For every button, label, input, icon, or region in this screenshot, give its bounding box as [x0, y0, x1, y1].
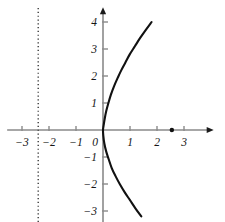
focus-point-marker [170, 128, 174, 132]
y-tick-label: −2 [83, 178, 97, 190]
x-tick-label: −2 [42, 136, 56, 148]
x-tick-label: −1 [69, 136, 83, 148]
x-tick-label: 1 [127, 136, 133, 148]
x-tick-label: −3 [15, 136, 29, 148]
y-tick-label: 1 [91, 97, 97, 109]
origin-label: 0 [92, 136, 98, 148]
y-tick-label: −1 [83, 151, 97, 163]
parabola-curve [103, 22, 152, 216]
y-tick-label: 2 [91, 70, 97, 82]
parabola-graph-figure: −3−2−11230 −3−2−11234 [0, 0, 225, 222]
y-axis-arrowhead-icon [100, 7, 106, 14]
y-axis-tick-labels: −3−2−11234 [83, 16, 97, 217]
y-tick-label: 3 [90, 43, 97, 55]
coordinate-plane-svg: −3−2−11230 −3−2−11234 [0, 0, 225, 222]
x-tick-label: 3 [180, 136, 187, 148]
y-tick-label: −3 [83, 205, 97, 217]
x-tick-label: 2 [154, 136, 160, 148]
x-axis-arrowhead-icon [207, 127, 214, 133]
y-tick-label: 4 [91, 16, 97, 28]
x-axis-tick-labels: −3−2−11230 [15, 136, 187, 148]
